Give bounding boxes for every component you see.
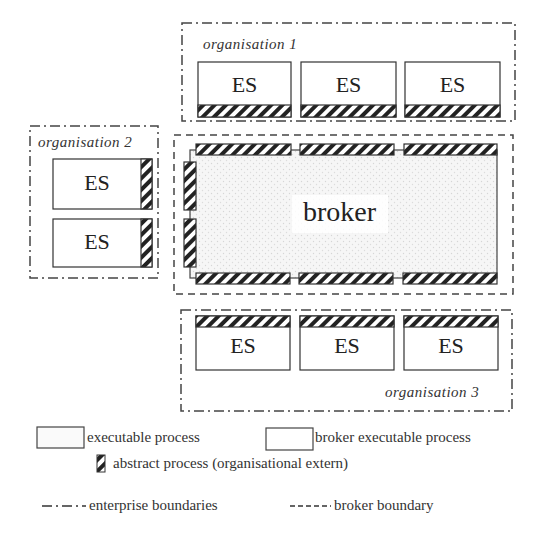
org1-es-1-label: ES xyxy=(198,72,291,98)
org3-es-2-label: ES xyxy=(300,333,394,359)
org3-label: organisation 3 xyxy=(385,384,479,401)
broker-abstract-left-1 xyxy=(184,162,196,210)
legend-executable-process-swatch xyxy=(37,427,84,448)
broker-abstract-top-1 xyxy=(196,144,291,155)
broker-abstract-bottom-3 xyxy=(403,273,497,284)
org1-label: organisation 1 xyxy=(203,36,297,53)
broker-abstract-top-2 xyxy=(300,144,394,155)
legend-abstract-process-swatch xyxy=(97,455,105,472)
legend-broker-executable-process-swatch xyxy=(266,428,313,450)
org2-es-1-label: ES xyxy=(53,170,141,196)
broker-label: broker xyxy=(303,196,376,228)
org3-es-3-label: ES xyxy=(404,333,498,359)
legend-executable-process-label: executable process xyxy=(87,429,200,446)
org2-es-2-label: ES xyxy=(53,229,141,255)
broker-abstract-bottom-1 xyxy=(196,273,290,284)
legend-broker-executable-process-label: broker executable process xyxy=(315,429,471,446)
legend-enterprise-boundaries-label: enterprise boundaries xyxy=(89,497,218,514)
broker-abstract-left-2 xyxy=(184,219,196,267)
org2-label: organisation 2 xyxy=(38,134,132,151)
broker-abstract-bottom-2 xyxy=(299,273,393,284)
org3-es-1-label: ES xyxy=(196,333,290,359)
broker-abstract-top-3 xyxy=(404,144,497,155)
org1-es-2-label: ES xyxy=(301,72,396,98)
legend-broker-boundary-label: broker boundary xyxy=(334,497,434,514)
org1-es-3-label: ES xyxy=(405,72,500,98)
legend-abstract-process-label: abstract process (organisational extern) xyxy=(113,455,348,472)
